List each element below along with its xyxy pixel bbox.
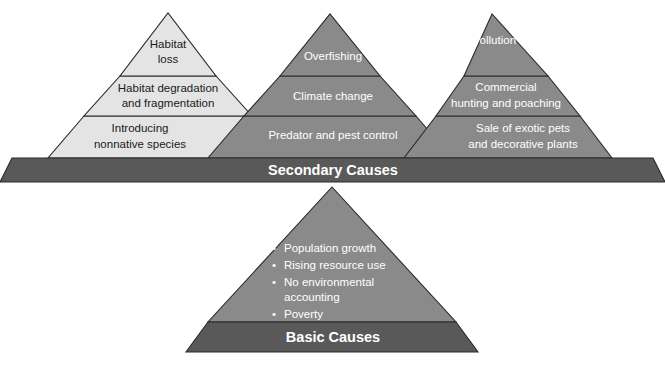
bullet-no-environmental-accounting-label-line2: accounting xyxy=(284,291,340,303)
bullet-population-growth-glyph: • xyxy=(272,242,276,254)
bullet-no-environmental-accounting-glyph: • xyxy=(272,276,276,288)
pyramid-diagram-canvas: Habitat loss Habitat degradation and fra… xyxy=(0,0,665,365)
bullet-rising-resource-use-glyph: • xyxy=(272,259,276,271)
habitat-loss-label-line2: loss xyxy=(158,53,179,65)
overexploitation-pyramid-layer-overfishing xyxy=(280,14,380,76)
bullet-no-environmental-accounting-label-line1: No environmental xyxy=(284,276,374,288)
nonnative-species-label-line2: nonnative species xyxy=(94,138,186,150)
commercial-hunting-label-line2: hunting and poaching xyxy=(451,97,561,109)
bullet-poverty-label: Poverty xyxy=(284,308,323,320)
bullet-population-growth-label: Population growth xyxy=(284,242,376,254)
pollution-label: Pollution xyxy=(472,34,516,46)
overfishing-label: Overfishing xyxy=(304,50,362,62)
bullet-rising-resource-use-label: Rising resource use xyxy=(284,259,386,271)
climate-change-label: Climate change xyxy=(293,90,373,102)
habitat-loss-label-line1: Habitat xyxy=(150,38,187,50)
nonnative-species-label-line1: Introducing xyxy=(112,122,169,134)
biodiversity-causes-diagram: Habitat loss Habitat degradation and fra… xyxy=(0,0,665,365)
habitat-degradation-label-line2: and fragmentation xyxy=(122,97,215,109)
secondary-causes-label: Secondary Causes xyxy=(268,162,398,178)
bullet-poverty-glyph: • xyxy=(272,308,276,320)
commercial-hunting-label-line1: Commercial xyxy=(475,81,536,93)
basic-causes-label: Basic Causes xyxy=(286,329,380,345)
habitat-degradation-label-line1: Habitat degradation xyxy=(118,82,218,94)
predator-pest-control-label: Predator and pest control xyxy=(268,129,397,141)
exotic-pets-label-line1: Sale of exotic pets xyxy=(476,122,570,134)
exotic-pets-label-line2: and decorative plants xyxy=(468,138,578,150)
